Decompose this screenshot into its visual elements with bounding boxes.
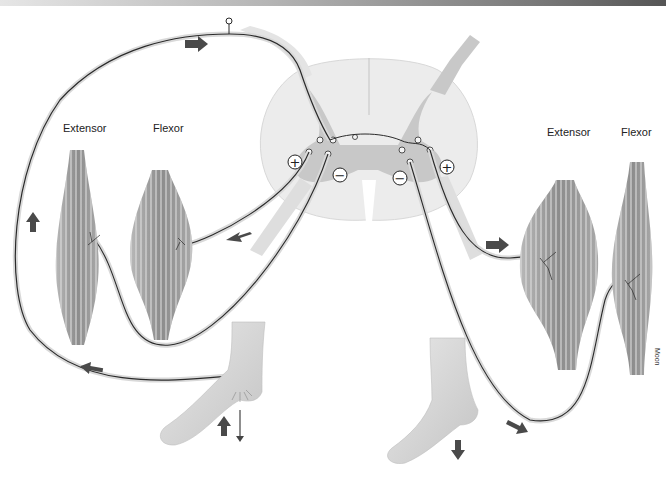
left-foot xyxy=(160,322,265,445)
arrow-left-icon xyxy=(226,232,252,242)
inhibitory-symbol-left: − xyxy=(335,168,346,183)
label-right-flexor: Flexor xyxy=(621,126,652,138)
left-motor-neurons xyxy=(95,152,328,345)
artist-signature: Moon xyxy=(654,348,661,366)
arrow-down-icon xyxy=(451,440,465,460)
label-right-extensor: Extensor xyxy=(547,126,590,138)
label-left-extensor: Extensor xyxy=(63,122,106,134)
excitatory-symbol-left: + xyxy=(290,155,301,170)
inhibitory-symbol-right: − xyxy=(395,171,406,186)
arrow-up-icon xyxy=(217,416,231,436)
excitatory-symbol-right: + xyxy=(442,160,453,175)
left-flexor-muscle xyxy=(130,170,192,340)
arrow-up-icon xyxy=(26,212,40,232)
label-left-flexor: Flexor xyxy=(153,122,184,134)
left-extensor-muscle xyxy=(56,150,100,345)
reflex-diagram: + − − + xyxy=(0,0,666,477)
right-flexor-muscle xyxy=(612,162,652,375)
right-foot xyxy=(388,338,478,464)
right-extensor-muscle xyxy=(520,180,598,370)
spinal-cord-cross-section xyxy=(240,26,482,260)
arrow-right-icon xyxy=(486,237,509,253)
arrow-down-right-icon xyxy=(506,420,528,434)
